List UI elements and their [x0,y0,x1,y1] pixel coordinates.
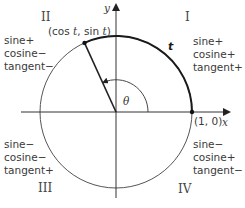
y-axis-label: y [103,2,111,14]
quadrant-I-tangent: tangent+ [193,61,243,73]
point-label-1-0: (1, 0) [194,115,222,127]
quadrant-II-cosine: cosine− [4,47,47,59]
unit-circle-diagram: y x (cos t, sin t) (1, 0) t θ I sine+ co… [0,0,245,208]
point-1-0 [190,110,194,114]
quadrant-II-sine: sine+ [4,34,34,46]
quadrant-III-tangent: tangent+ [4,164,54,176]
quadrant-III-cosine: cosine− [4,151,47,163]
arc-t [85,36,193,112]
quadrant-I-cosine: cosine+ [193,48,236,60]
arc-t-label: t [168,40,174,53]
radius-line [85,43,117,112]
theta-label: θ [123,95,130,107]
quadrant-IV-cosine: cosine+ [193,151,236,163]
quadrant-IV-sine: sine− [193,138,223,150]
quadrant-IV-numeral: IV [178,182,192,196]
point-cos-sin [82,41,86,45]
quadrant-I-numeral: I [185,10,190,24]
quadrant-I-sine: sine+ [193,35,223,47]
point-label-cos-sin: (cos t, sin t) [48,25,111,37]
x-axis-label: x [222,116,228,128]
quadrant-II-tangent: tangent− [4,60,54,72]
quadrant-III-sine: sine− [4,138,34,150]
quadrant-II-numeral: II [41,10,51,24]
quadrant-III-numeral: III [38,181,52,195]
quadrant-IV-tangent: tangent− [193,164,243,176]
